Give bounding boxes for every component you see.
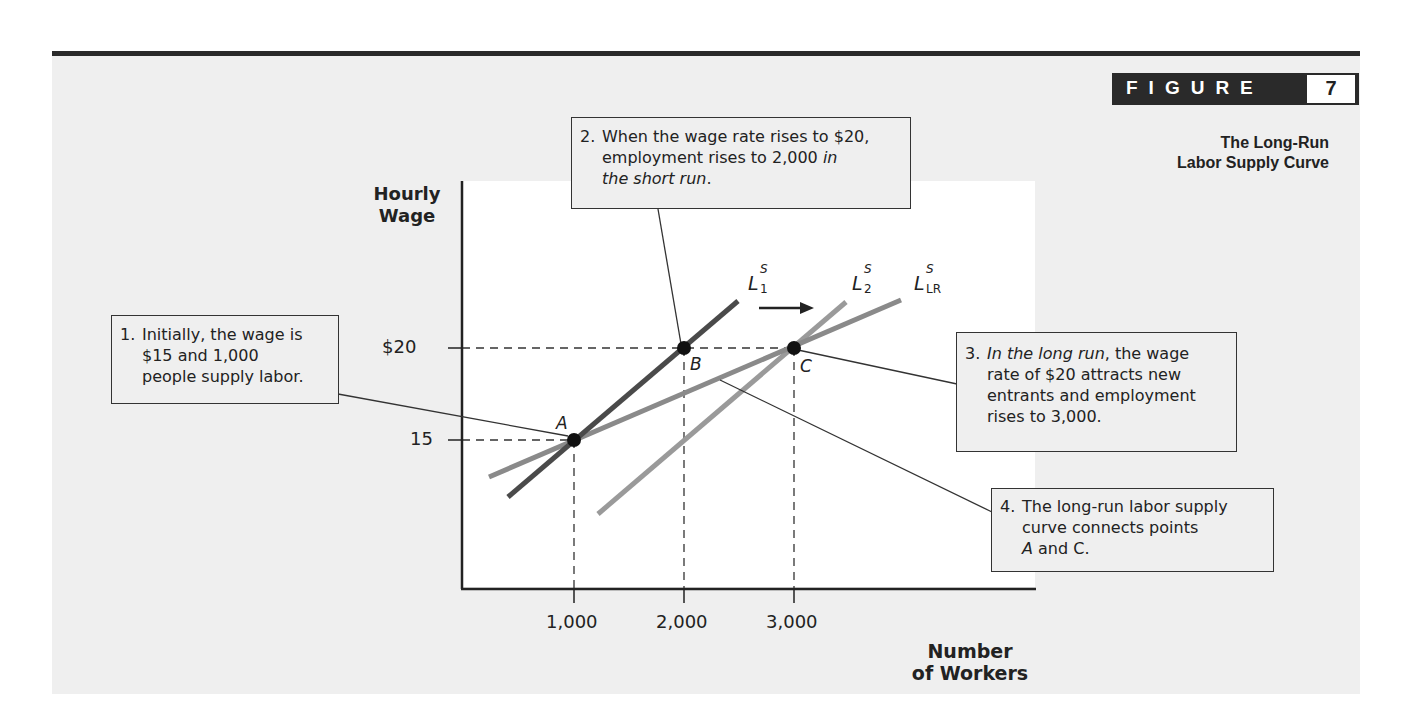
point-B-label: B <box>690 354 702 374</box>
callout-4-line-text: and C. <box>1033 539 1090 558</box>
y-axis-label: Hourly Wage <box>362 183 452 227</box>
callout-3-line: rate of $20 attracts new <box>987 364 1230 385</box>
curve-L2 <box>598 302 846 514</box>
callout-2-line-text: employment rises to 2,000 <box>602 148 823 167</box>
curve-label-L1-sup: S <box>760 262 768 276</box>
point-A-label: A <box>556 413 568 433</box>
shift-arrow-head <box>800 302 814 314</box>
point-C-label: C <box>800 356 812 376</box>
point-A-marker <box>567 433 581 447</box>
x-tick-1000: 1,000 <box>546 611 598 632</box>
callout-3: 3. In the long run, the wage rate of $20… <box>956 332 1237 452</box>
callout-4-line: The long-run labor supply <box>1022 496 1267 517</box>
callout-2-italic: the short run <box>602 169 706 188</box>
callout-2-number: 2. <box>580 126 595 147</box>
callout-2-italic: in <box>823 148 838 167</box>
callout-1-text: Initially, the wage is $15 and 1,000 peo… <box>142 324 332 387</box>
callout-1: 1. Initially, the wage is $15 and 1,000 … <box>111 315 339 404</box>
curve-L1 <box>508 301 738 497</box>
callout-3-line-text: , the wage <box>1105 344 1189 363</box>
callout-2-text: When the wage rate rises to $20, employm… <box>602 126 904 189</box>
y-tick-20: $20 <box>382 336 416 357</box>
curve-label-L2: LS2 <box>852 272 863 294</box>
callout-4-italic: A <box>1022 539 1033 558</box>
curve-label-L2-sub: 2 <box>864 282 872 296</box>
callout-1-line: $15 and 1,000 <box>142 345 332 366</box>
callout-2-line: When the wage rate rises to $20, <box>602 126 904 147</box>
callout-2-line-text: . <box>706 169 711 188</box>
curve-label-L2-sup: S <box>864 262 872 276</box>
callout-3-line: entrants and employment <box>987 385 1230 406</box>
callout-4-line: A and C. <box>1022 538 1267 559</box>
x-tick-2000: 2,000 <box>656 611 708 632</box>
callout-3-italic: In the long run <box>987 344 1105 363</box>
x-axis-label-line2: of Workers <box>905 662 1035 684</box>
callout-4-number: 4. <box>1000 496 1015 517</box>
callout-1-line: Initially, the wage is <box>142 324 332 345</box>
y-axis-label-line2: Wage <box>362 205 452 227</box>
callout-2: 2. When the wage rate rises to $20, empl… <box>571 117 911 209</box>
y-axis-label-line1: Hourly <box>362 183 452 205</box>
y-tick-15: 15 <box>410 428 433 449</box>
curve-label-L1-sub: 1 <box>760 282 768 296</box>
callout-1-number: 1. <box>120 324 135 345</box>
callout-4-text: The long-run labor supply curve connects… <box>1022 496 1267 559</box>
callout-3-line: In the long run, the wage <box>987 343 1230 364</box>
callout-4: 4. The long-run labor supply curve conne… <box>991 488 1274 572</box>
point-C-marker <box>787 341 801 355</box>
curve-label-LLR-base: L <box>914 272 925 294</box>
callout-3-line: rises to 3,000. <box>987 406 1230 427</box>
callout-4-line: curve connects points <box>1022 517 1267 538</box>
curve-label-L1-base: L <box>748 272 759 294</box>
curve-LLR <box>489 300 901 477</box>
axis-ticks <box>448 348 794 603</box>
callout-2-line: the short run. <box>602 168 904 189</box>
curve-label-L2-base: L <box>852 272 863 294</box>
curve-label-LLR-sup: S <box>926 262 934 276</box>
callout-1-line: people supply labor. <box>142 366 332 387</box>
curve-label-LLR: LSLR <box>914 272 925 294</box>
curve-label-L1: LS1 <box>748 272 759 294</box>
callout-3-text: In the long run, the wage rate of $20 at… <box>987 343 1230 427</box>
x-axis-label-line1: Number <box>905 640 1035 662</box>
callout-2-line: employment rises to 2,000 in <box>602 147 904 168</box>
point-B-marker <box>677 341 691 355</box>
x-axis-label: Number of Workers <box>905 640 1035 684</box>
curve-label-LLR-sub: LR <box>926 282 941 296</box>
callout-3-number: 3. <box>965 343 980 364</box>
x-tick-3000: 3,000 <box>766 611 818 632</box>
